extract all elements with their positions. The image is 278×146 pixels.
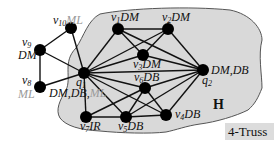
label-v7: v7IR [80, 119, 101, 134]
attr-q1: DM,DB,ML [48, 86, 107, 100]
label-v1: v1DM [111, 10, 140, 25]
attr-v8: ML [17, 87, 35, 101]
legend-4-truss: 4-Truss [228, 124, 267, 139]
label-v6: v6DB [134, 70, 160, 85]
label-v8: v8 [22, 73, 31, 88]
label-v4: v4DB [175, 107, 201, 122]
node-v4 [160, 109, 172, 121]
attr-q2: DM,DB [210, 63, 249, 77]
attr-v9: DM [17, 48, 38, 62]
label-v10: v10ML [53, 13, 83, 28]
region-label-H: H [213, 97, 224, 112]
node-v8 [34, 81, 46, 93]
graph-diagram: v10MLv9DMv8MLq1DM,DB,MLv1DMv2DMv3DMq2DM,… [0, 0, 278, 146]
label-v5: v5DB [118, 119, 144, 134]
label-v2: v2DM [162, 10, 191, 25]
